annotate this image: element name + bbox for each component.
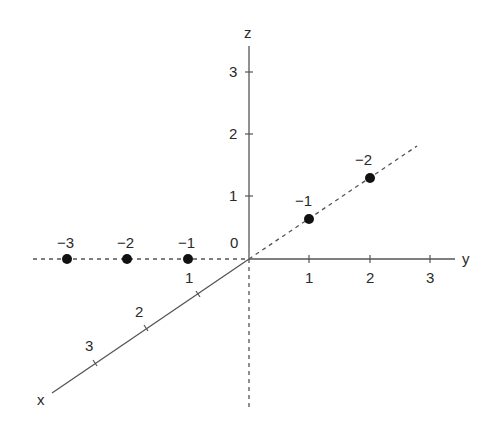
- point-left-neg1: [183, 254, 193, 264]
- y-tick-label-3: 3: [426, 269, 434, 286]
- x-axis-label: x: [37, 391, 45, 408]
- z-axis-label: z: [244, 24, 252, 41]
- diagram-canvas: z y x 0 3 2 1 1 2 3 1 2 3 −3 −2 −1 −1 −2: [0, 0, 494, 427]
- point-left-neg3: [62, 254, 72, 264]
- z-tick-label-3: 3: [229, 63, 237, 80]
- point-left-neg3-label: −3: [57, 234, 74, 251]
- point-diag-neg2: [365, 173, 375, 183]
- origin-label: 0: [230, 234, 238, 251]
- point-diag-neg1-label: −1: [295, 192, 312, 209]
- z-tick-label-2: 2: [229, 125, 237, 142]
- point-left-neg1-label: −1: [178, 234, 195, 251]
- y-tick-label-1: 1: [305, 269, 313, 286]
- x-axis-negative-dashed: [249, 146, 417, 259]
- x-axis: [52, 259, 249, 393]
- point-diag-neg1: [304, 214, 314, 224]
- y-axis-label: y: [462, 250, 470, 267]
- y-tick-label-2: 2: [366, 269, 374, 286]
- x-tick-label-2: 2: [135, 303, 143, 320]
- point-diag-neg2-label: −2: [355, 151, 372, 168]
- z-tick-label-1: 1: [229, 187, 237, 204]
- x-tick-label-1: 1: [185, 269, 193, 286]
- point-left-neg2-label: −2: [117, 234, 134, 251]
- x-tick-label-3: 3: [85, 337, 93, 354]
- point-left-neg2: [122, 254, 132, 264]
